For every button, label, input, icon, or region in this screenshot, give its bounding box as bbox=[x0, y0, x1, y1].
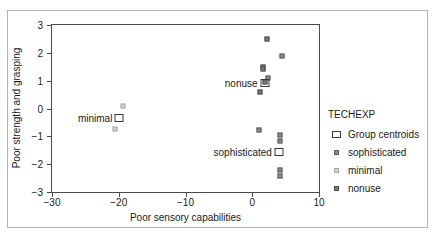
legend-swatch-icon bbox=[328, 131, 344, 138]
legend-item-group-centroids[interactable]: Group centroids bbox=[328, 127, 428, 142]
data-point-nonuse bbox=[258, 89, 263, 94]
legend-swatch-icon bbox=[328, 150, 344, 155]
x-tick-label: 0 bbox=[249, 197, 255, 208]
plot-area: −30−20−10010 3210−1−2−3 nonuseminimalsop… bbox=[51, 24, 320, 193]
legend-swatch-icon bbox=[328, 168, 344, 173]
x-axis-label: Poor sensory capabilities bbox=[52, 212, 319, 223]
legend: TECHEXP Group centroidssophisticatedmini… bbox=[328, 109, 428, 199]
legend-swatch-icon bbox=[328, 186, 344, 191]
y-tick-label: −3 bbox=[32, 187, 43, 198]
y-tick-label: 2 bbox=[37, 47, 43, 58]
x-tick-label: 10 bbox=[313, 197, 324, 208]
y-tick bbox=[47, 81, 52, 82]
data-point-sophisticated bbox=[277, 173, 282, 178]
y-tick bbox=[47, 53, 52, 54]
legend-item-minimal[interactable]: minimal bbox=[328, 163, 428, 178]
y-tick-label: 3 bbox=[37, 20, 43, 31]
centroid-label-minimal: minimal bbox=[78, 112, 114, 123]
y-tick bbox=[47, 136, 52, 137]
centroid-label-nonuse: nonuse bbox=[225, 77, 260, 88]
legend-title: TECHEXP bbox=[328, 109, 428, 120]
legend-label: sophisticated bbox=[348, 147, 406, 158]
data-point-nonuse bbox=[264, 36, 269, 41]
y-tick-label: −1 bbox=[32, 131, 43, 142]
data-point-sophisticated bbox=[280, 53, 285, 58]
centroid-minimal bbox=[115, 114, 124, 122]
data-point-minimal bbox=[120, 103, 125, 108]
y-tick bbox=[47, 109, 52, 110]
y-tick-label: −2 bbox=[32, 159, 43, 170]
legend-label: nonuse bbox=[348, 183, 381, 194]
y-axis-label: Poor strength and grasping bbox=[11, 48, 22, 169]
centroid-sophisticated bbox=[274, 148, 283, 156]
y-tick bbox=[47, 192, 52, 193]
data-point-sophisticated bbox=[256, 128, 261, 133]
data-point-sophisticated bbox=[277, 138, 282, 143]
figure-frame: −30−20−10010 3210−1−2−3 nonuseminimalsop… bbox=[7, 10, 428, 228]
y-tick-label: 0 bbox=[37, 103, 43, 114]
x-tick-label: −10 bbox=[177, 197, 194, 208]
data-point-minimal bbox=[112, 127, 117, 132]
legend-entries: Group centroidssophisticatedminimalnonus… bbox=[328, 127, 428, 196]
data-point-sophisticated bbox=[277, 132, 282, 137]
centroid-nonuse bbox=[260, 79, 269, 87]
legend-label: minimal bbox=[348, 165, 382, 176]
x-tick-label: −20 bbox=[110, 197, 127, 208]
legend-item-nonuse[interactable]: nonuse bbox=[328, 181, 428, 196]
legend-item-sophisticated[interactable]: sophisticated bbox=[328, 145, 428, 160]
data-point-nonuse bbox=[260, 66, 265, 71]
centroid-label-sophisticated: sophisticated bbox=[214, 146, 274, 157]
x-tick-label: −30 bbox=[44, 197, 61, 208]
y-tick bbox=[47, 25, 52, 26]
legend-label: Group centroids bbox=[348, 129, 419, 140]
data-point-sophisticated bbox=[277, 168, 282, 173]
y-tick-label: 1 bbox=[37, 75, 43, 86]
y-tick bbox=[47, 164, 52, 165]
